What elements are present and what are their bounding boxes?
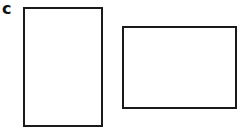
panel-label: c <box>2 0 11 18</box>
portrait-rectangle <box>23 7 103 127</box>
landscape-rectangle <box>122 26 237 109</box>
